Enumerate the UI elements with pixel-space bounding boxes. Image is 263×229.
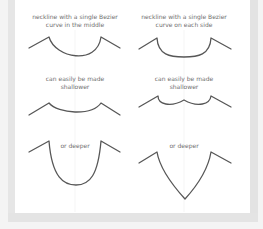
caption-middle-right-line1: can easily be made <box>129 75 239 83</box>
caption-middle-left-line1: can easily be made <box>20 75 130 83</box>
caption-top-left-line2: curve in the middle <box>20 21 130 29</box>
caption-top-left-line1: neckline with a single Bezier <box>20 13 130 21</box>
caption-top-left: neckline with a single Bezier curve in t… <box>20 13 130 29</box>
caption-top-right-line1: neckline with a single Bezier <box>129 13 239 21</box>
neckline-diagram <box>0 0 263 229</box>
caption-bottom-right-line1: or deeper <box>129 142 239 150</box>
caption-bottom-right: or deeper <box>129 142 239 150</box>
neckline-curve-shallower-right <box>139 96 231 107</box>
caption-top-right: neckline with a single Bezier curve on e… <box>129 13 239 29</box>
caption-middle-left-line2: shallower <box>20 83 130 91</box>
caption-bottom-left: or deeper <box>20 142 130 150</box>
neckline-curve-side-beziers <box>139 38 231 57</box>
caption-top-right-line2: curve on each side <box>129 21 239 29</box>
caption-middle-right-line2: shallower <box>129 83 239 91</box>
neckline-curve-deeper-right <box>139 152 231 199</box>
neckline-curve-shallower-left <box>29 103 120 115</box>
caption-bottom-left-line1: or deeper <box>20 142 130 150</box>
neckline-curve-middle-bezier <box>29 37 120 56</box>
caption-middle-left: can easily be made shallower <box>20 75 130 91</box>
caption-middle-right: can easily be made shallower <box>129 75 239 91</box>
